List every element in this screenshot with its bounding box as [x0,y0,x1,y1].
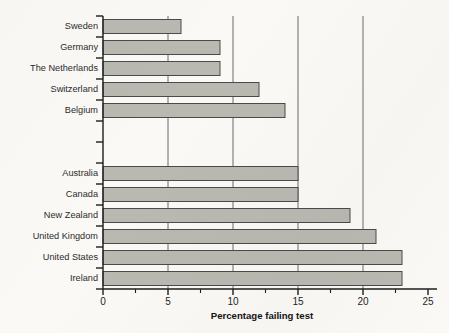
bar [103,83,259,97]
category-label: Canada [66,189,99,199]
x-tick-label: 10 [227,296,239,307]
x-tick-label: 0 [100,296,106,307]
category-label: Ireland [70,273,98,283]
category-labels: SwedenGermanyThe NetherlandsSwitzerlandB… [30,21,99,283]
bar [103,104,285,118]
x-tick-label: 20 [357,296,369,307]
bar [103,167,298,181]
bar [103,20,181,34]
category-label: The Netherlands [30,63,98,73]
x-tick-label: 15 [292,296,304,307]
x-tick-label: 25 [422,296,434,307]
bar [103,230,376,244]
x-axis-ticks [103,289,428,295]
category-label: United Kingdom [33,231,99,241]
horizontal-bar-chart: SwedenGermanyThe NetherlandsSwitzerlandB… [0,0,449,333]
x-axis-tick-labels: 0510152025 [100,296,434,307]
bar [103,209,350,223]
category-label: United States [43,252,99,262]
category-label: Germany [60,42,98,52]
category-label: Australia [62,168,99,178]
category-label: Belgium [65,105,99,115]
bar [103,251,402,265]
bars [103,20,402,286]
chart-page: SwedenGermanyThe NetherlandsSwitzerlandB… [0,0,449,333]
bar [103,62,220,76]
gridlines [168,16,363,289]
bar [103,41,220,55]
y-axis-ticks [96,16,103,289]
category-label: New Zealand [44,210,98,220]
bar [103,188,298,202]
x-tick-label: 5 [165,296,171,307]
x-axis-title: Percentage failing test [211,310,314,321]
category-label: Switzerland [51,84,99,94]
bar [103,272,402,286]
category-label: Sweden [65,21,98,31]
